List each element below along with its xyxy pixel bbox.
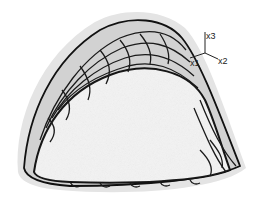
axis-label-x1: x1 bbox=[190, 59, 200, 68]
axis-label-x2: x2 bbox=[218, 57, 228, 66]
axis-label-x3: x3 bbox=[206, 32, 216, 41]
surface-figure: x3 x1 x2 bbox=[0, 0, 260, 200]
